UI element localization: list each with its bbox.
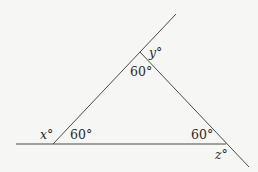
exterior-angle-top-label: y°: [148, 45, 162, 60]
right-side-line: [140, 52, 249, 167]
exterior-angle-left-label: x°: [40, 127, 53, 142]
interior-angle-left-label: 60°: [70, 127, 92, 142]
interior-angle-right-label: 60°: [191, 127, 213, 142]
triangle-diagram: y° 60° x° 60° 60° z°: [0, 0, 258, 172]
left-side-line: [53, 14, 176, 144]
exterior-angle-right-label: z°: [214, 147, 228, 162]
interior-angle-top-label: 60°: [130, 64, 152, 79]
